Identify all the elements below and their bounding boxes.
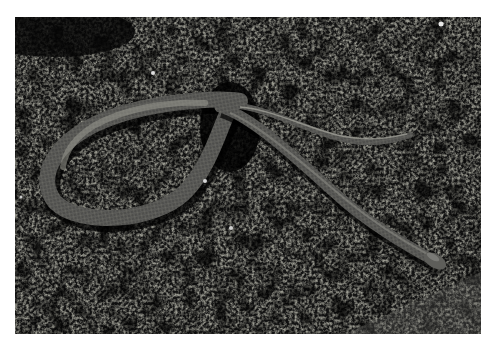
photograph	[15, 17, 481, 334]
snake-on-moss-image	[15, 17, 481, 334]
